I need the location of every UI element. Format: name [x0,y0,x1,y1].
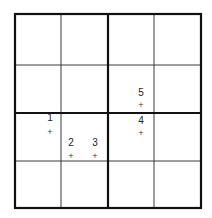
point-label: 3 [92,137,98,148]
point-label: 4 [138,115,144,126]
plus-marker-icon: + [92,152,98,160]
grid-diagram: 1+2+3+4+5+ [0,0,212,218]
point-label: 1 [47,112,53,123]
plus-marker-icon: + [68,152,74,160]
plus-marker-icon: + [47,128,53,136]
plus-marker-icon: + [138,129,144,137]
point-label: 5 [138,87,144,98]
points-layer: 1+2+3+4+5+ [47,87,144,160]
point-label: 2 [68,137,74,148]
plus-marker-icon: + [138,101,144,109]
